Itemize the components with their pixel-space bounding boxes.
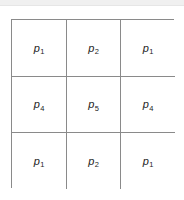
kernel-cell-r2c2: p5 <box>67 77 121 133</box>
kernel-cell-r1c1: p1 <box>12 20 67 77</box>
coefficient-label-r1c3: p1 <box>143 43 153 54</box>
coefficient-label-r3c3: p1 <box>143 156 153 167</box>
coefficient-subscript: 1 <box>149 47 153 56</box>
coefficient-subscript: 1 <box>40 47 44 56</box>
kernel-grid: p1 p2 p1 p4 p5 p4 p1 p2 p1 <box>11 19 174 188</box>
kernel-figure: p1 p2 p1 p4 p5 p4 p1 p2 p1 <box>0 0 184 200</box>
coefficient-subscript: 4 <box>40 104 44 113</box>
coefficient-subscript: 1 <box>149 160 153 169</box>
kernel-cell-r3c1: p1 <box>12 133 67 189</box>
coefficient-subscript: 2 <box>95 160 99 169</box>
coefficient-label-r3c2: p2 <box>88 156 98 167</box>
kernel-cell-r2c1: p4 <box>12 77 67 133</box>
coefficient-label-r3c1: p1 <box>34 156 44 167</box>
coefficient-subscript: 5 <box>95 104 99 113</box>
kernel-cell-r3c2: p2 <box>67 133 121 189</box>
coefficient-label-r2c2: p5 <box>88 99 98 110</box>
coefficient-label-r2c3: p4 <box>143 99 153 110</box>
coefficient-label-r2c1: p4 <box>34 99 44 110</box>
coefficient-symbol: p <box>88 98 94 110</box>
kernel-cell-r3c3: p1 <box>121 133 175 189</box>
coefficient-symbol: p <box>88 155 94 167</box>
coefficient-symbol: p <box>88 42 94 54</box>
kernel-cell-r1c3: p1 <box>121 20 175 77</box>
kernel-cell-r2c3: p4 <box>121 77 175 133</box>
coefficient-label-r1c1: p1 <box>34 43 44 54</box>
coefficient-subscript: 4 <box>149 104 153 113</box>
kernel-cell-r1c2: p2 <box>67 20 121 77</box>
coefficient-subscript: 1 <box>40 160 44 169</box>
coefficient-label-r1c2: p2 <box>88 43 98 54</box>
coefficient-subscript: 2 <box>95 47 99 56</box>
